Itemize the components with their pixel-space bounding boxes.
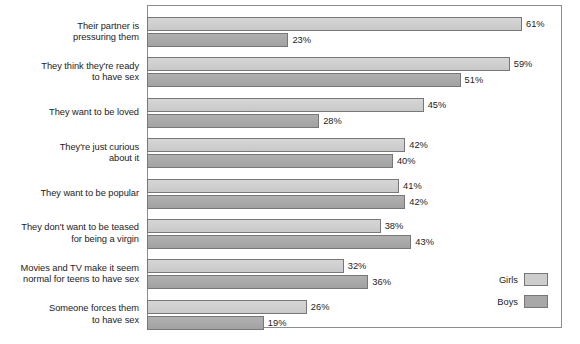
category-label: They think they're readyto have sex <box>0 61 139 84</box>
chart-legend: GirlsBoys <box>480 272 554 316</box>
category-label-line: about it <box>0 153 139 164</box>
bar-girls <box>147 138 405 152</box>
category-label-line: for being a virgin <box>0 234 139 245</box>
bar-girls <box>147 17 522 31</box>
category-label: They want to be popular <box>0 188 139 199</box>
category-label-line: They're just curious <box>0 142 139 153</box>
bar-boys <box>147 195 405 209</box>
bar-boys <box>147 275 368 289</box>
legend-swatch-girls <box>524 273 548 286</box>
bar-value-girls: 45% <box>424 98 447 112</box>
bar-boys <box>147 316 264 330</box>
bar-girls <box>147 179 399 193</box>
bar-value-boys: 51% <box>461 73 484 87</box>
bar-boys <box>147 33 288 47</box>
bar-value-girls: 32% <box>344 259 367 273</box>
category-label-line: They want to be loved <box>0 107 139 118</box>
bar-girls <box>147 98 424 112</box>
bar-value-boys: 19% <box>264 316 287 330</box>
category-label-line: Movies and TV make it seem <box>0 263 139 274</box>
legend-label: Boys <box>480 297 518 307</box>
bar-girls <box>147 57 510 71</box>
category-label: They don't want to be teasedfor being a … <box>0 222 139 245</box>
category-label-line: pressuring them <box>0 32 139 43</box>
bar-boys <box>147 154 393 168</box>
legend-item-girls[interactable]: Girls <box>480 272 554 290</box>
bar-value-boys: 28% <box>319 114 342 128</box>
bar-girls <box>147 219 381 233</box>
bar-value-girls: 42% <box>405 138 428 152</box>
bar-value-girls: 26% <box>307 300 330 314</box>
bar-value-girls: 38% <box>381 219 404 233</box>
category-label-line: They want to be popular <box>0 188 139 199</box>
category-label-line: normal for teens to have sex <box>0 274 139 285</box>
category-label-line: to have sex <box>0 315 139 326</box>
bar-boys <box>147 73 461 87</box>
category-label-line: They think they're ready <box>0 61 139 72</box>
bar-value-girls: 59% <box>510 57 533 71</box>
category-label-line: They don't want to be teased <box>0 222 139 233</box>
bar-value-boys: 36% <box>368 275 391 289</box>
bar-value-boys: 40% <box>393 154 416 168</box>
category-label: Movies and TV make it seemnormal for tee… <box>0 263 139 286</box>
category-label: Someone forces themto have sex <box>0 303 139 326</box>
bar-girls <box>147 259 344 273</box>
category-label-line: Someone forces them <box>0 303 139 314</box>
bar-value-girls: 41% <box>399 179 422 193</box>
bar-value-boys: 42% <box>405 195 428 209</box>
bar-boys <box>147 114 319 128</box>
bar-value-boys: 43% <box>411 235 434 249</box>
bar-boys <box>147 235 411 249</box>
category-label: Their partner ispressuring them <box>0 21 139 44</box>
legend-label: Girls <box>480 275 518 285</box>
bar-value-boys: 23% <box>288 33 311 47</box>
legend-item-boys[interactable]: Boys <box>480 294 554 312</box>
grouped-bar-chart: Their partner ispressuring themThey thin… <box>0 0 580 344</box>
category-label-line: to have sex <box>0 72 139 83</box>
bar-value-girls: 61% <box>522 17 545 31</box>
bar-girls <box>147 300 307 314</box>
category-axis-labels: Their partner ispressuring themThey thin… <box>0 5 143 328</box>
category-label: They're just curiousabout it <box>0 142 139 165</box>
category-label-line: Their partner is <box>0 21 139 32</box>
legend-swatch-boys <box>524 295 548 308</box>
category-label: They want to be loved <box>0 107 139 118</box>
